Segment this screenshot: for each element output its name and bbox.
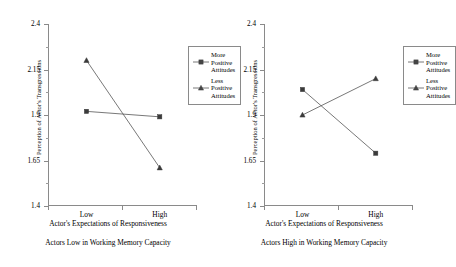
plot-area-high-wmc: 1.41.651.92.152.4 LowHigh More Positive …	[264, 24, 412, 206]
panel-caption: Actors Low in Working Memory Capacity	[0, 238, 216, 247]
x-tick-label-low: Low	[80, 210, 94, 219]
x-tick-label-high: High	[368, 210, 383, 219]
square-marker	[84, 109, 88, 113]
square-marker	[374, 151, 378, 155]
y-tick-label: 2.4	[247, 20, 256, 28]
y-tick-label: 2.15	[243, 66, 256, 74]
triangle-marker	[193, 78, 209, 86]
panel-low-wmc: Perception of Actor's Transgressions 1.4…	[0, 0, 216, 267]
square-marker	[408, 52, 424, 60]
square-marker	[300, 87, 304, 91]
x-tick-mark	[196, 205, 197, 210]
y-tick-label: 1.9	[247, 111, 256, 119]
series-line	[86, 60, 159, 167]
y-tick-label: 1.65	[243, 157, 256, 165]
triangle-marker	[373, 76, 378, 81]
x-axis-label: Actor's Expectations of Responsiveness	[216, 219, 432, 228]
legend-label: Less Positive Attitudes	[426, 77, 450, 100]
x-axis-label: Actor's Expectations of Responsiveness	[0, 219, 216, 228]
legend-entry: More Positive Attitudes	[408, 51, 450, 74]
y-tick-label: 1.4	[247, 202, 256, 210]
y-axis-label: Perception of Actor's Transgressions	[251, 23, 258, 193]
legend-label: More Positive Attitudes	[426, 51, 450, 74]
legend-entry: Less Positive Attitudes	[408, 77, 450, 100]
legend: More Positive AttitudesLess Positive Att…	[403, 46, 456, 105]
square-marker	[193, 52, 209, 60]
y-tick-label: 2.15	[27, 66, 40, 74]
panel-high-wmc: Perception of Actor's Transgressions 1.4…	[216, 0, 432, 267]
panel-caption: Actors High in Working Memory Capacity	[216, 238, 432, 247]
y-tick-label: 1.9	[31, 111, 40, 119]
x-tick-label-low: Low	[296, 210, 310, 219]
square-marker	[414, 60, 418, 64]
triangle-marker	[84, 58, 89, 63]
y-tick-label: 1.4	[31, 202, 40, 210]
x-tick-label-high: High	[152, 210, 167, 219]
y-tick-label: 1.65	[27, 157, 40, 165]
square-marker	[199, 60, 203, 64]
series-line	[302, 79, 375, 115]
series-line	[302, 90, 375, 154]
y-tick-label: 2.4	[31, 20, 40, 28]
series-plot	[48, 24, 196, 206]
triangle-marker	[300, 112, 305, 117]
x-tick-mark	[412, 205, 413, 210]
triangle-marker	[408, 78, 424, 86]
square-marker	[158, 115, 162, 119]
y-axis-label: Perception of Actor's Transgressions	[35, 23, 42, 193]
plot-area-low-wmc: 1.41.651.92.152.4 LowHigh More Positive …	[48, 24, 196, 206]
series-plot	[264, 24, 412, 206]
